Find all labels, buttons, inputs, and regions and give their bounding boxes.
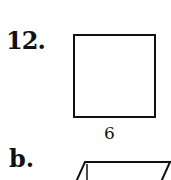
parallelogram-figure <box>76 162 170 180</box>
part-b-label: b. <box>9 144 34 173</box>
square-figure <box>74 35 155 117</box>
square-side-label: 6 <box>104 123 115 143</box>
